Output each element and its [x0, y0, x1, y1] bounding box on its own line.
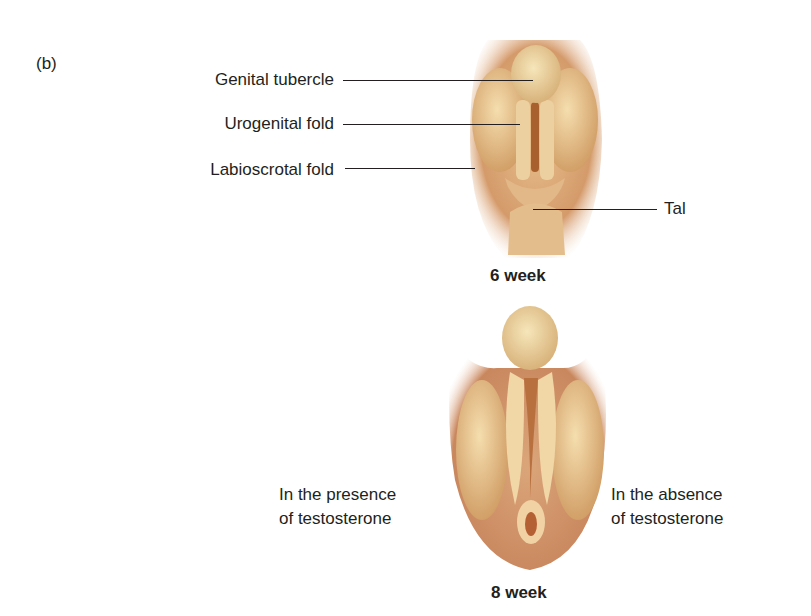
note-absence-line2: of testosterone [611, 510, 723, 527]
leader-line-tail [533, 209, 657, 210]
six-week-illustration [470, 40, 602, 258]
caption-8-week: 8 week [491, 583, 547, 603]
label-urogenital-fold: Urogenital fold [150, 115, 334, 132]
note-absence-line1: In the absence [611, 486, 723, 503]
leader-line-urogenital-fold [343, 124, 520, 125]
label-labioscrotal-fold: Labioscrotal fold [150, 161, 334, 178]
label-genital-tubercle: Genital tubercle [150, 71, 334, 88]
note-presence-line2: of testosterone [279, 510, 391, 527]
panel-label: (b) [36, 55, 57, 72]
leader-line-genital-tubercle [343, 80, 533, 81]
note-presence-line1: In the presence [279, 486, 396, 503]
caption-6-week: 6 week [490, 266, 546, 286]
label-tail: Tal [664, 200, 686, 217]
eight-week-illustration [449, 306, 606, 570]
leader-line-labioscrotal-fold [345, 168, 475, 169]
